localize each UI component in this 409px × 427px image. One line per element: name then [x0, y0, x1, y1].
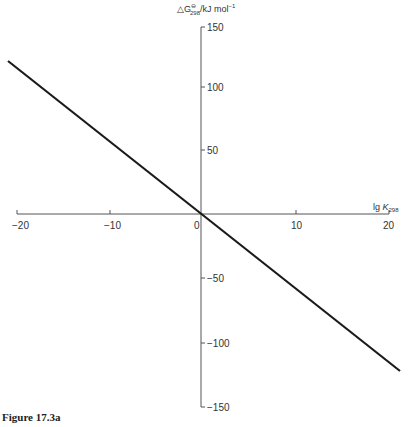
chart: −20 −10 0 10 20 150 100 50 −50 −100 −150…	[0, 0, 409, 427]
x-axis-label: lg K298	[373, 202, 399, 213]
x-tick-label: −20	[12, 220, 29, 231]
figure-caption: Figure 17.3a	[2, 411, 60, 423]
x-tick-label: 20	[383, 220, 395, 231]
origin-label: 0	[194, 220, 200, 231]
data-line	[8, 61, 400, 371]
y-axis-label: △G⊖298/kJ mol−1	[177, 3, 236, 16]
y-tick-label: 100	[207, 82, 224, 93]
y-tick-label: 50	[207, 145, 219, 156]
y-tick-label: −50	[207, 273, 224, 284]
x-tick-label: −10	[104, 220, 121, 231]
x-tick-label: 10	[291, 220, 303, 231]
y-tick-label: −150	[207, 402, 230, 413]
y-tick-label: −100	[207, 338, 230, 349]
y-tick-label: 150	[207, 22, 224, 33]
